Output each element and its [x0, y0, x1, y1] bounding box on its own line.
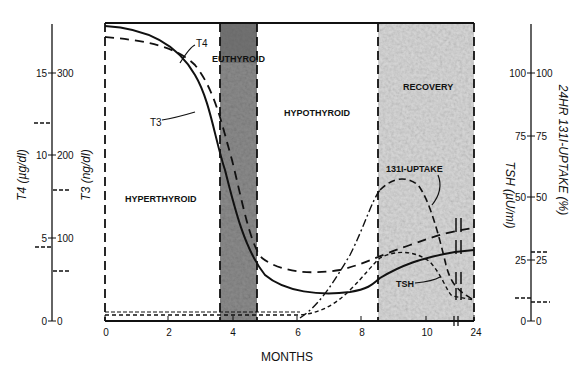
x-tick-6: 6 — [295, 327, 301, 338]
t3-tick-200: 200 — [57, 150, 74, 161]
label-recovery: RECOVERY — [403, 82, 453, 92]
annot-t4: T4 — [196, 38, 208, 49]
tsh-tick-25: 25 — [515, 255, 527, 266]
x-tick-4: 4 — [230, 327, 236, 338]
uptake-tick-75: 75 — [536, 131, 548, 142]
uptake-tick-100: 100 — [536, 68, 553, 79]
x-tick-labels: 0 2 4 6 8 10 24 — [103, 327, 482, 338]
t4-tick-10: 10 — [36, 150, 48, 161]
annot-tsh: TSH — [396, 279, 414, 289]
t4-axis-title: T4 (µg/dl) — [15, 149, 29, 201]
x-tick-24: 24 — [470, 327, 482, 338]
t4-tick-0: 0 — [41, 316, 47, 327]
tsh-tick-0: 0 — [520, 316, 526, 327]
x-tick-2: 2 — [166, 327, 172, 338]
label-euthyroid: EUTHYROID — [212, 54, 266, 64]
uptake-tick-25: 25 — [536, 255, 548, 266]
uptake-tick-50: 50 — [536, 192, 548, 203]
t3-axis-title: T3 (ng/dl) — [79, 149, 93, 200]
annot-uptake: 131I-UPTAKE — [386, 164, 443, 174]
x-tick-10: 10 — [421, 327, 433, 338]
x-axis-title: MONTHS — [261, 350, 313, 364]
x-tick-0: 0 — [103, 327, 109, 338]
thyroid-chart: 0 2 4 6 8 10 24 MONTHS 15 10 5 0 300 200… — [0, 0, 586, 383]
tsh-tick-100: 100 — [509, 68, 526, 79]
uptake-axis-title: 24HR 131I-UPTAKE (%) — [556, 84, 570, 215]
t4-tick-15: 15 — [36, 68, 48, 79]
t3-tick-300: 300 — [57, 68, 74, 79]
tsh-axis-title: TSH (µU/ml) — [503, 162, 517, 229]
annot-t4-arrow — [180, 45, 195, 63]
t3-tick-0: 0 — [57, 316, 63, 327]
t4-tick-5: 5 — [41, 233, 47, 244]
annot-t3-arrow — [162, 112, 195, 120]
t3-tick-100: 100 — [57, 233, 74, 244]
tsh-tick-75: 75 — [515, 131, 527, 142]
left-tick-labels: 15 10 5 0 300 200 100 0 — [36, 68, 74, 327]
annot-t3: T3 — [150, 117, 162, 128]
label-hypothyroid: HYPOTHYROID — [284, 108, 351, 118]
x-tick-8: 8 — [359, 327, 365, 338]
uptake-tick-0: 0 — [536, 316, 542, 327]
label-hyperthyroid: HYPERTHYROID — [125, 194, 197, 204]
